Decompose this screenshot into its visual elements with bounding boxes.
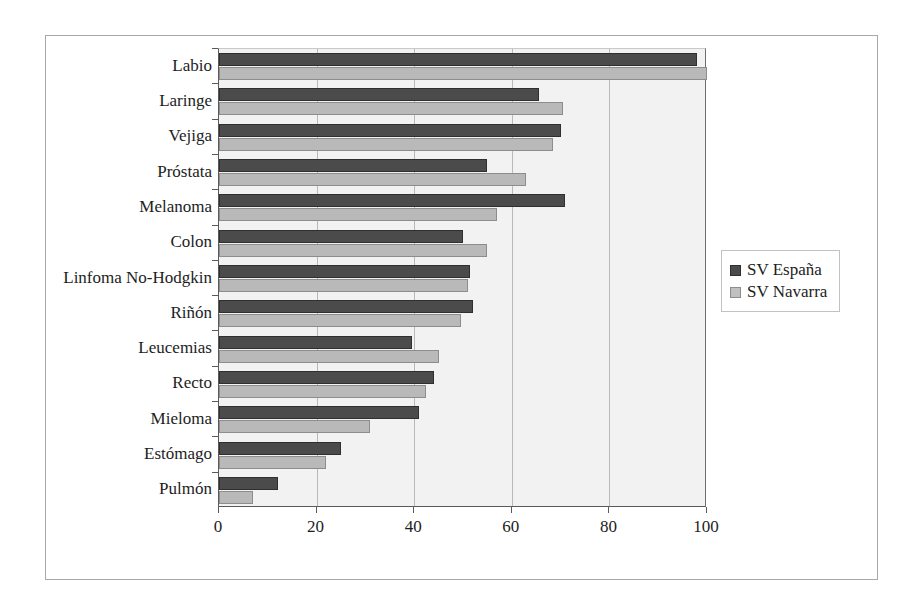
y-tick: [212, 83, 218, 84]
bar-group: [219, 84, 705, 119]
x-axis-label: 80: [578, 517, 638, 537]
y-axis-label: Riñón: [0, 304, 212, 321]
bar-espana: [219, 265, 470, 278]
x-tick: [218, 507, 219, 513]
y-axis-label: Mieloma: [0, 410, 212, 427]
bar-group: [219, 261, 705, 296]
bar-espana: [219, 477, 278, 490]
bar-navarra: [219, 173, 526, 186]
bar-group: [219, 473, 705, 508]
y-axis-label: Labio: [0, 57, 212, 74]
bar-espana: [219, 53, 697, 66]
y-tick: [212, 260, 218, 261]
y-axis-label: Colon: [0, 233, 212, 250]
bar-espana: [219, 124, 561, 137]
y-axis-label: Melanoma: [0, 198, 212, 215]
chart-figure: LabioLaringeVejigaPróstataMelanomaColonL…: [45, 35, 878, 580]
bar-navarra: [219, 102, 563, 115]
bar-group: [219, 190, 705, 225]
y-tick: [212, 189, 218, 190]
y-axis-label: Leucemias: [0, 339, 212, 356]
bar-group: [219, 331, 705, 366]
bar-espana: [219, 336, 412, 349]
y-axis-label: Laringe: [0, 92, 212, 109]
bar-navarra: [219, 385, 426, 398]
x-tick: [706, 507, 707, 513]
bar-navarra: [219, 244, 487, 257]
bar-navarra: [219, 420, 370, 433]
y-axis-label: Estómago: [0, 445, 212, 462]
y-tick: [212, 154, 218, 155]
bar-navarra: [219, 491, 253, 504]
plot-area: [218, 48, 706, 507]
x-tick: [511, 507, 512, 513]
bar-navarra: [219, 456, 326, 469]
y-tick: [212, 295, 218, 296]
legend-label-espana: SV España: [747, 260, 822, 280]
chart-legend: SV España SV Navarra: [721, 250, 840, 312]
bar-group: [219, 367, 705, 402]
legend-swatch-icon-navarra: [730, 287, 741, 298]
bar-espana: [219, 406, 419, 419]
bar-group: [219, 120, 705, 155]
bar-navarra: [219, 350, 439, 363]
bar-espana: [219, 300, 473, 313]
bar-group: [219, 402, 705, 437]
x-tick: [316, 507, 317, 513]
y-tick: [212, 119, 218, 120]
y-axis-label: Próstata: [0, 163, 212, 180]
x-tick: [608, 507, 609, 513]
bar-group: [219, 49, 705, 84]
y-axis-label: Recto: [0, 374, 212, 391]
bar-navarra: [219, 138, 553, 151]
x-axis-label: 20: [286, 517, 346, 537]
bar-navarra: [219, 208, 497, 221]
bar-group: [219, 226, 705, 261]
x-tick: [413, 507, 414, 513]
bar-group: [219, 296, 705, 331]
x-axis-label: 60: [481, 517, 541, 537]
y-tick: [212, 330, 218, 331]
y-tick: [212, 366, 218, 367]
bar-espana: [219, 159, 487, 172]
legend-entry-sv-espana: SV España: [730, 260, 827, 280]
bar-espana: [219, 88, 539, 101]
y-axis-label: Pulmón: [0, 480, 212, 497]
bar-espana: [219, 194, 565, 207]
bar-espana: [219, 230, 463, 243]
y-tick: [212, 472, 218, 473]
legend-label-navarra: SV Navarra: [747, 282, 827, 302]
y-tick: [212, 48, 218, 49]
y-axis-label: Linfoma No-Hodgkin: [0, 269, 212, 286]
y-tick: [212, 436, 218, 437]
bar-espana: [219, 371, 434, 384]
bar-group: [219, 437, 705, 472]
x-axis-label: 100: [676, 517, 736, 537]
x-axis-label: 40: [383, 517, 443, 537]
x-axis-label: 0: [188, 517, 248, 537]
bar-group: [219, 155, 705, 190]
bar-navarra: [219, 279, 468, 292]
y-axis-label: Vejiga: [0, 127, 212, 144]
y-tick: [212, 225, 218, 226]
bar-navarra: [219, 314, 461, 327]
y-tick: [212, 401, 218, 402]
legend-swatch-icon-espana: [730, 265, 741, 276]
bar-navarra: [219, 67, 707, 80]
legend-entry-sv-navarra: SV Navarra: [730, 282, 827, 302]
bar-espana: [219, 442, 341, 455]
